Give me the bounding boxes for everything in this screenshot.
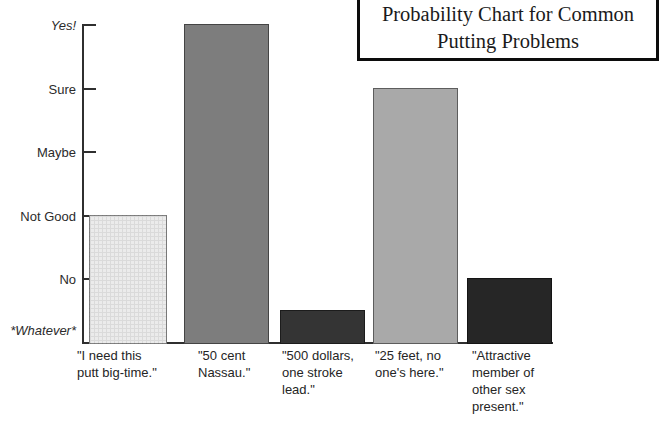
x-category-label-line: "Attractive bbox=[472, 347, 534, 364]
x-category-label-line: lead." bbox=[282, 381, 354, 398]
x-category-label-line: one stroke bbox=[282, 364, 354, 381]
x-category-label: "500 dollars,one strokelead." bbox=[282, 347, 354, 398]
chart-title-box: Probability Chart for Common Putting Pro… bbox=[357, 0, 659, 61]
y-tick-label: No bbox=[0, 272, 76, 287]
chart-title-line-2: Putting Problems bbox=[362, 28, 654, 55]
y-tick-mark bbox=[82, 151, 96, 153]
y-tick-label: Sure bbox=[0, 81, 76, 96]
x-category-label-line: "50 cent bbox=[198, 347, 250, 364]
chart-bar bbox=[280, 310, 365, 344]
x-category-label: "I need thisputt big-time." bbox=[77, 347, 157, 381]
x-category-label-line: other sex bbox=[472, 381, 534, 398]
y-tick-label: Maybe bbox=[0, 145, 76, 160]
x-category-label-line: "I need this bbox=[77, 347, 157, 364]
x-category-label-line: putt big-time." bbox=[77, 364, 157, 381]
y-tick-mark bbox=[82, 24, 96, 26]
y-tick-label: Yes! bbox=[0, 18, 76, 33]
x-category-label-line: "25 feet, no bbox=[375, 347, 444, 364]
x-category-label: "Attractivemember ofother sexpresent." bbox=[472, 347, 534, 415]
y-tick-mark bbox=[82, 88, 96, 90]
y-tick-label: Not Good bbox=[0, 208, 76, 223]
chart-bar bbox=[373, 88, 458, 344]
chart-bar bbox=[467, 278, 552, 344]
chart-title-line-1: Probability Chart for Common bbox=[362, 1, 654, 28]
x-category-label-line: present." bbox=[472, 398, 534, 415]
putting-probability-chart: Probability Chart for Common Putting Pro… bbox=[0, 0, 666, 427]
chart-bar bbox=[89, 215, 167, 344]
y-tick-label: *Whatever* bbox=[0, 323, 76, 338]
x-category-label: "25 feet, noone's here." bbox=[375, 347, 444, 381]
y-axis-line bbox=[82, 24, 84, 344]
x-category-label-line: member of bbox=[472, 364, 534, 381]
x-category-label-line: Nassau." bbox=[198, 364, 250, 381]
x-category-label-line: one's here." bbox=[375, 364, 444, 381]
x-category-label: "50 centNassau." bbox=[198, 347, 250, 381]
chart-bar bbox=[184, 24, 269, 344]
x-category-label-line: "500 dollars, bbox=[282, 347, 354, 364]
